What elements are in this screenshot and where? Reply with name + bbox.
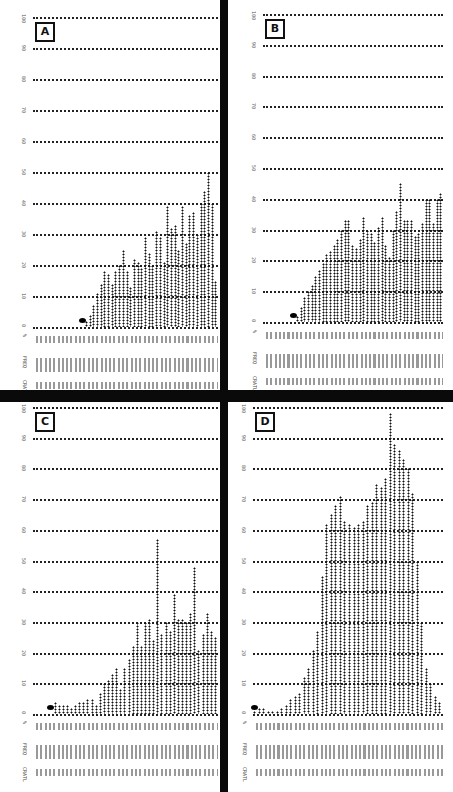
y-tick-label: 90 [21, 435, 27, 441]
histogram-bar [262, 708, 265, 714]
y-tick-label: 70 [21, 107, 27, 113]
histogram-bar [66, 705, 69, 714]
histogram-bar [357, 524, 360, 714]
histogram-bar [174, 225, 177, 327]
row-label: CRATL [22, 380, 28, 390]
y-tick-label: 20 [21, 650, 27, 656]
histogram-bar [126, 271, 129, 327]
histogram-bar [189, 613, 192, 714]
y-tick-label: 10 [21, 680, 27, 686]
y-tick-label: 0 [21, 711, 27, 714]
histogram-bar [210, 631, 213, 714]
histogram-bar [393, 444, 396, 714]
histogram-bar [388, 257, 391, 322]
panel-b: B0102030405060708090100%FREQCRATL [228, 0, 453, 390]
y-tick-label: 50 [21, 558, 27, 564]
histogram-bar [438, 702, 441, 714]
row-values [266, 378, 443, 385]
y-tick-label: 40 [251, 196, 257, 202]
histogram-bar [107, 680, 110, 714]
histogram-bar [340, 230, 343, 322]
histogram-bar [170, 228, 173, 327]
histogram-bar [303, 677, 306, 714]
y-tick-label: 10 [241, 680, 247, 686]
histogram-bar [192, 212, 195, 327]
y-tick-label: 0 [241, 711, 247, 714]
y-tick-label: 20 [251, 257, 257, 263]
y-tick-label: 10 [21, 293, 27, 299]
histogram-bar [329, 251, 332, 322]
y-tick-label: 90 [241, 435, 247, 441]
histogram-bar [371, 502, 374, 714]
y-tick-label: 90 [21, 45, 27, 51]
histogram-bar [425, 668, 428, 714]
gridline [253, 714, 443, 716]
histogram-bar [303, 297, 306, 322]
row-label: % [22, 334, 28, 337]
row-values [36, 723, 218, 730]
y-tick-label: 100 [241, 404, 247, 413]
y-tick-label: 0 [251, 319, 257, 322]
histogram-bar [377, 227, 380, 322]
histogram-bar [211, 203, 214, 327]
histogram-bar [152, 640, 155, 714]
histogram-bar [420, 622, 423, 714]
histogram-bar [267, 711, 270, 714]
histogram-bar [58, 705, 61, 714]
histogram-bar [314, 276, 317, 322]
histogram-bar [318, 270, 321, 322]
histogram-bar [91, 699, 94, 714]
histogram-bar [206, 613, 209, 714]
histogram-bar [137, 262, 140, 327]
panel-c: C0102030405060708090100%FREQCRATL [0, 402, 220, 792]
histogram-bar [289, 699, 292, 714]
gridline [33, 327, 218, 329]
histogram-bar [312, 650, 315, 714]
histogram-bar [82, 702, 85, 714]
y-tick-label: 60 [21, 527, 27, 533]
histogram-bar [339, 496, 342, 714]
y-tick-label: 20 [241, 650, 247, 656]
y-tick-label: 30 [21, 619, 27, 625]
histogram-bar [155, 231, 158, 327]
histogram-bar [159, 237, 162, 327]
row-values [36, 358, 218, 372]
gridline [263, 322, 443, 324]
histogram-bar [353, 527, 356, 714]
histogram-bar [181, 206, 184, 327]
y-tick-label: 30 [241, 619, 247, 625]
histogram-bar [181, 619, 184, 714]
histogram-bar [375, 484, 378, 714]
histogram-bar [203, 191, 206, 327]
histogram-bar [111, 284, 114, 327]
histogram-bar [439, 193, 442, 322]
histogram-bar [271, 711, 274, 714]
histogram-bar [86, 699, 89, 714]
histogram-bar [188, 215, 191, 327]
histogram-bar [156, 539, 159, 714]
histogram-plot-b [263, 14, 443, 322]
histogram-bar [366, 505, 369, 714]
histogram-bar [177, 619, 180, 714]
histogram-bar [370, 233, 373, 322]
row-label: FREQ [252, 352, 258, 364]
histogram-bar [258, 708, 261, 714]
y-tick-label: 40 [21, 200, 27, 206]
histogram-bar [214, 637, 217, 714]
histogram-bar [103, 271, 106, 327]
row-values [266, 332, 443, 339]
histogram-bar [123, 668, 126, 714]
y-tick-label: 10 [251, 288, 257, 294]
histogram-bar [136, 622, 139, 714]
histogram-bar [140, 268, 143, 327]
histogram-bar [151, 265, 154, 327]
histogram-bar [428, 199, 431, 322]
histogram-bar [95, 705, 98, 714]
histogram-bar [436, 199, 439, 322]
histogram-bar [114, 271, 117, 327]
histogram-bar [325, 524, 328, 714]
histogram-bar [322, 263, 325, 322]
y-tick-label: 40 [21, 588, 27, 594]
y-tick-label: 60 [21, 138, 27, 144]
histogram-bar [399, 183, 402, 322]
